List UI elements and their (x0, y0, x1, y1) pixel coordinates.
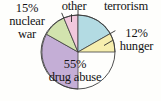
pie-label-hunger: 12% hunger (112, 27, 161, 53)
pie-label-drug-abuse-percent: 55% (38, 58, 112, 71)
pie-label-drug-abuse: 55% drug abuse (38, 58, 112, 84)
pie-label-nuclear-war-text1: nuclear (1, 15, 53, 28)
tick-nuclear-other (62, 13, 64, 18)
pie-chart-figure: 15% nuclear war other terrorism 12% hung… (0, 0, 161, 101)
pie-label-terrorism: terrorism (92, 0, 160, 13)
pie-label-other: other (54, 0, 94, 13)
pie-label-terrorism-text: terrorism (92, 0, 160, 13)
pie-label-nuclear-war: 15% nuclear war (1, 2, 53, 40)
pie-label-hunger-text: hunger (112, 40, 161, 53)
pie-label-drug-abuse-text: drug abuse (38, 71, 112, 84)
pie-label-other-text: other (54, 0, 94, 13)
pie-label-nuclear-war-percent: 15% (1, 2, 53, 15)
pie-label-hunger-percent: 12% (112, 27, 161, 40)
pie-label-nuclear-war-text2: war (1, 28, 53, 41)
